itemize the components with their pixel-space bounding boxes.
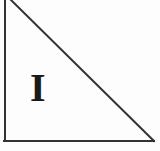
figure-container: I <box>0 0 160 151</box>
figure-background <box>0 0 160 151</box>
triangle-diagram-canvas <box>0 0 160 151</box>
